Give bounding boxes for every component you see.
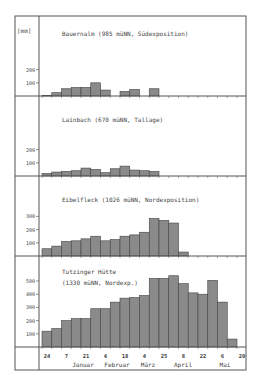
bar bbox=[130, 89, 140, 96]
bar bbox=[71, 241, 81, 256]
bar bbox=[149, 171, 159, 176]
bar bbox=[120, 236, 130, 256]
x-tick-label: 8 bbox=[182, 353, 185, 359]
month-label: Mai bbox=[220, 361, 231, 368]
bar bbox=[149, 278, 159, 347]
bar bbox=[101, 241, 111, 256]
x-tick-label: 18 bbox=[122, 353, 129, 359]
month-label: April bbox=[174, 361, 192, 369]
x-tick-label: 20 bbox=[239, 353, 246, 359]
y-tick-label: 100 bbox=[26, 80, 35, 86]
y-unit-label: [mm] bbox=[17, 27, 31, 34]
y-tick-label: 100 bbox=[26, 240, 35, 246]
bar bbox=[62, 89, 72, 96]
month-label: Februar bbox=[104, 361, 130, 368]
bar bbox=[42, 249, 52, 256]
bar bbox=[101, 90, 111, 96]
y-tick-label: 400 bbox=[26, 291, 35, 297]
bar bbox=[218, 302, 228, 347]
bar bbox=[179, 252, 189, 256]
bar bbox=[81, 87, 91, 96]
precipitation-chart-figure: [mm] Bauernalm (985 müNN, Südexposition)… bbox=[0, 0, 262, 384]
y-tick-label: 200 bbox=[26, 318, 35, 324]
bar bbox=[169, 223, 179, 256]
bar bbox=[81, 319, 91, 347]
bar bbox=[62, 241, 72, 256]
y-tick-label: 500 bbox=[26, 278, 35, 284]
y-tick-label: 300 bbox=[26, 213, 35, 219]
bar bbox=[81, 168, 91, 176]
y-tick-label: 300 bbox=[26, 304, 35, 310]
panel-title-tutzinger-line1: Tutzinger Hütte bbox=[62, 268, 117, 276]
month-label: Januar bbox=[72, 361, 94, 368]
bar bbox=[198, 294, 208, 347]
bar bbox=[110, 169, 120, 176]
bar bbox=[227, 339, 237, 347]
bar bbox=[130, 170, 140, 176]
bar bbox=[91, 169, 101, 176]
bar bbox=[130, 235, 140, 256]
bar bbox=[120, 166, 130, 176]
panel-title-eibelfleck: Eibelfleck (1026 müNN, Nordexposition) bbox=[62, 196, 199, 204]
bar bbox=[149, 218, 159, 256]
bar bbox=[120, 298, 130, 347]
bar bbox=[42, 331, 52, 347]
month-label: März bbox=[141, 361, 156, 368]
y-tick-label: 200 bbox=[26, 227, 35, 233]
bar bbox=[179, 284, 189, 347]
bar bbox=[71, 87, 81, 96]
bar bbox=[159, 278, 169, 347]
y-tick-label: 100 bbox=[26, 331, 35, 337]
bar bbox=[91, 236, 101, 256]
bar bbox=[52, 329, 62, 347]
x-tick-label: 24 bbox=[44, 353, 51, 359]
panel-title-bauernalm: Bauernalm (985 müNN, Südexposition) bbox=[62, 30, 188, 38]
bar bbox=[52, 172, 62, 176]
bar bbox=[149, 89, 159, 96]
x-tick-label: 4 bbox=[104, 353, 108, 359]
y-tick-label: 200 bbox=[26, 67, 35, 73]
y-tick-label: 200 bbox=[26, 147, 35, 153]
bar bbox=[101, 309, 111, 347]
panel-title-tutzinger-line2: (1330 müNN, Nordexp.) bbox=[62, 279, 138, 287]
x-tick-label: 25 bbox=[161, 353, 168, 359]
bar bbox=[71, 171, 81, 176]
bar bbox=[130, 298, 140, 348]
bar bbox=[62, 171, 72, 176]
bar bbox=[169, 276, 179, 347]
bar bbox=[71, 319, 81, 347]
bar bbox=[188, 293, 198, 347]
x-tick-label: 4 bbox=[143, 353, 147, 359]
bar bbox=[140, 296, 150, 347]
x-tick-label: 22 bbox=[200, 353, 207, 359]
x-tick-label: 6 bbox=[221, 353, 225, 359]
bar bbox=[110, 240, 120, 257]
bar bbox=[91, 309, 101, 347]
bar bbox=[208, 280, 218, 347]
bar bbox=[62, 321, 72, 347]
y-tick-label: 100 bbox=[26, 160, 35, 166]
bar bbox=[52, 246, 62, 256]
bar bbox=[91, 83, 101, 96]
panel-title-lainbach: Lainbach (670 müNN, Tallage) bbox=[62, 116, 163, 124]
bar bbox=[81, 239, 91, 256]
bar bbox=[140, 171, 150, 176]
bar bbox=[110, 302, 120, 347]
bar bbox=[120, 91, 130, 96]
bar bbox=[140, 232, 150, 256]
x-tick-label: 21 bbox=[83, 353, 90, 359]
x-tick-label: 7 bbox=[65, 353, 68, 359]
bar bbox=[159, 220, 169, 256]
